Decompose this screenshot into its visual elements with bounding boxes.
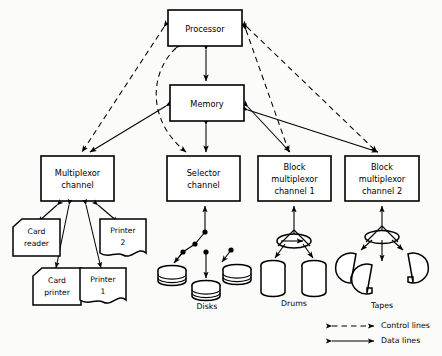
block-multiplexor-2-label-line1: Block bbox=[371, 162, 393, 172]
control-line-processor-block1 bbox=[246, 30, 289, 152]
link-drum-1 bbox=[275, 244, 285, 258]
selector-channel-label-line2: channel bbox=[187, 180, 219, 190]
device-printer-1[interactable]: Printer 1 bbox=[80, 268, 126, 303]
drum-bus-links bbox=[275, 206, 313, 258]
device-disk-3[interactable] bbox=[223, 264, 251, 284]
device-disk-1[interactable] bbox=[158, 265, 186, 285]
device-drum-1[interactable] bbox=[261, 260, 285, 296]
block-multiplexor-1-label-line1: Block bbox=[283, 162, 305, 172]
printer-1-label-line1: Printer bbox=[90, 275, 116, 284]
legend: Control lines Data lines bbox=[332, 321, 430, 345]
card-reader-label-line2: reader bbox=[24, 239, 50, 248]
disks-group-label: Disks bbox=[197, 302, 218, 311]
block-multiplexor-2-label-line2: multiplexor bbox=[359, 174, 406, 184]
device-tape-3[interactable] bbox=[408, 253, 428, 283]
block-multiplexor-1-label-line2: multiplexor bbox=[271, 174, 318, 184]
multiplexor-channel-label-line1: Multiplexor bbox=[55, 168, 101, 178]
block-multiplexor-2-label-line3: channel 2 bbox=[362, 186, 402, 196]
block-multiplexor-1-label-line3: channel 1 bbox=[274, 186, 314, 196]
data-line-memory-block1 bbox=[248, 107, 290, 152]
link-disk-3 bbox=[222, 250, 231, 262]
disk-daisy-chain bbox=[175, 232, 205, 262]
multiplexor-channel-label-line2: channel bbox=[61, 180, 93, 190]
device-disk-2[interactable] bbox=[192, 280, 220, 300]
device-card-printer[interactable]: Card printer bbox=[33, 268, 81, 305]
node-memory[interactable]: Memory bbox=[170, 85, 244, 121]
data-line-memory-block2 bbox=[248, 110, 378, 152]
architecture-diagram: Processor Memory Multiplexor channel Sel… bbox=[0, 0, 442, 356]
link-multiplexor-printer-1 bbox=[86, 205, 101, 268]
node-block-multiplexor-1[interactable]: Block multiplexor channel 1 bbox=[258, 156, 331, 201]
drums-group-label: Drums bbox=[281, 299, 307, 308]
legend-data-label: Data lines bbox=[381, 336, 420, 345]
link-disk-1 bbox=[174, 252, 183, 263]
data-line-memory-multiplexor bbox=[90, 106, 166, 152]
disk-chain-node-1 bbox=[202, 229, 207, 234]
processor-label: Processor bbox=[185, 24, 225, 34]
disk-chain-node-2 bbox=[192, 241, 197, 246]
device-card-reader[interactable]: Card reader bbox=[13, 219, 60, 256]
node-processor[interactable]: Processor bbox=[168, 10, 242, 46]
card-printer-label-line1: Card bbox=[48, 276, 66, 285]
selector-channel-label-line1: Selector bbox=[187, 168, 221, 178]
control-line-processor-multiplexor bbox=[82, 27, 164, 152]
tapes-group-label: Tapes bbox=[370, 301, 393, 310]
printer-2-label-line1: Printer bbox=[110, 226, 136, 235]
memory-label: Memory bbox=[190, 99, 223, 109]
node-block-multiplexor-2[interactable]: Block multiplexor channel 2 bbox=[345, 156, 419, 201]
card-reader-label-line1: Card bbox=[28, 227, 46, 236]
control-line-processor-block2 bbox=[247, 27, 377, 152]
legend-control-label: Control lines bbox=[381, 321, 430, 330]
tape-bus-links bbox=[361, 206, 403, 261]
printer-1-label-line2: 1 bbox=[101, 287, 106, 296]
device-printer-2[interactable]: Printer 2 bbox=[100, 219, 146, 256]
device-tape-2[interactable] bbox=[352, 264, 372, 294]
device-drum-2[interactable] bbox=[302, 260, 326, 296]
node-selector-channel[interactable]: Selector channel bbox=[167, 156, 240, 201]
card-printer-label-line2: printer bbox=[44, 288, 71, 297]
printer-2-label-line2: 2 bbox=[121, 238, 126, 247]
node-multiplexor-channel[interactable]: Multiplexor channel bbox=[41, 156, 114, 201]
link-drum-2 bbox=[303, 244, 313, 258]
